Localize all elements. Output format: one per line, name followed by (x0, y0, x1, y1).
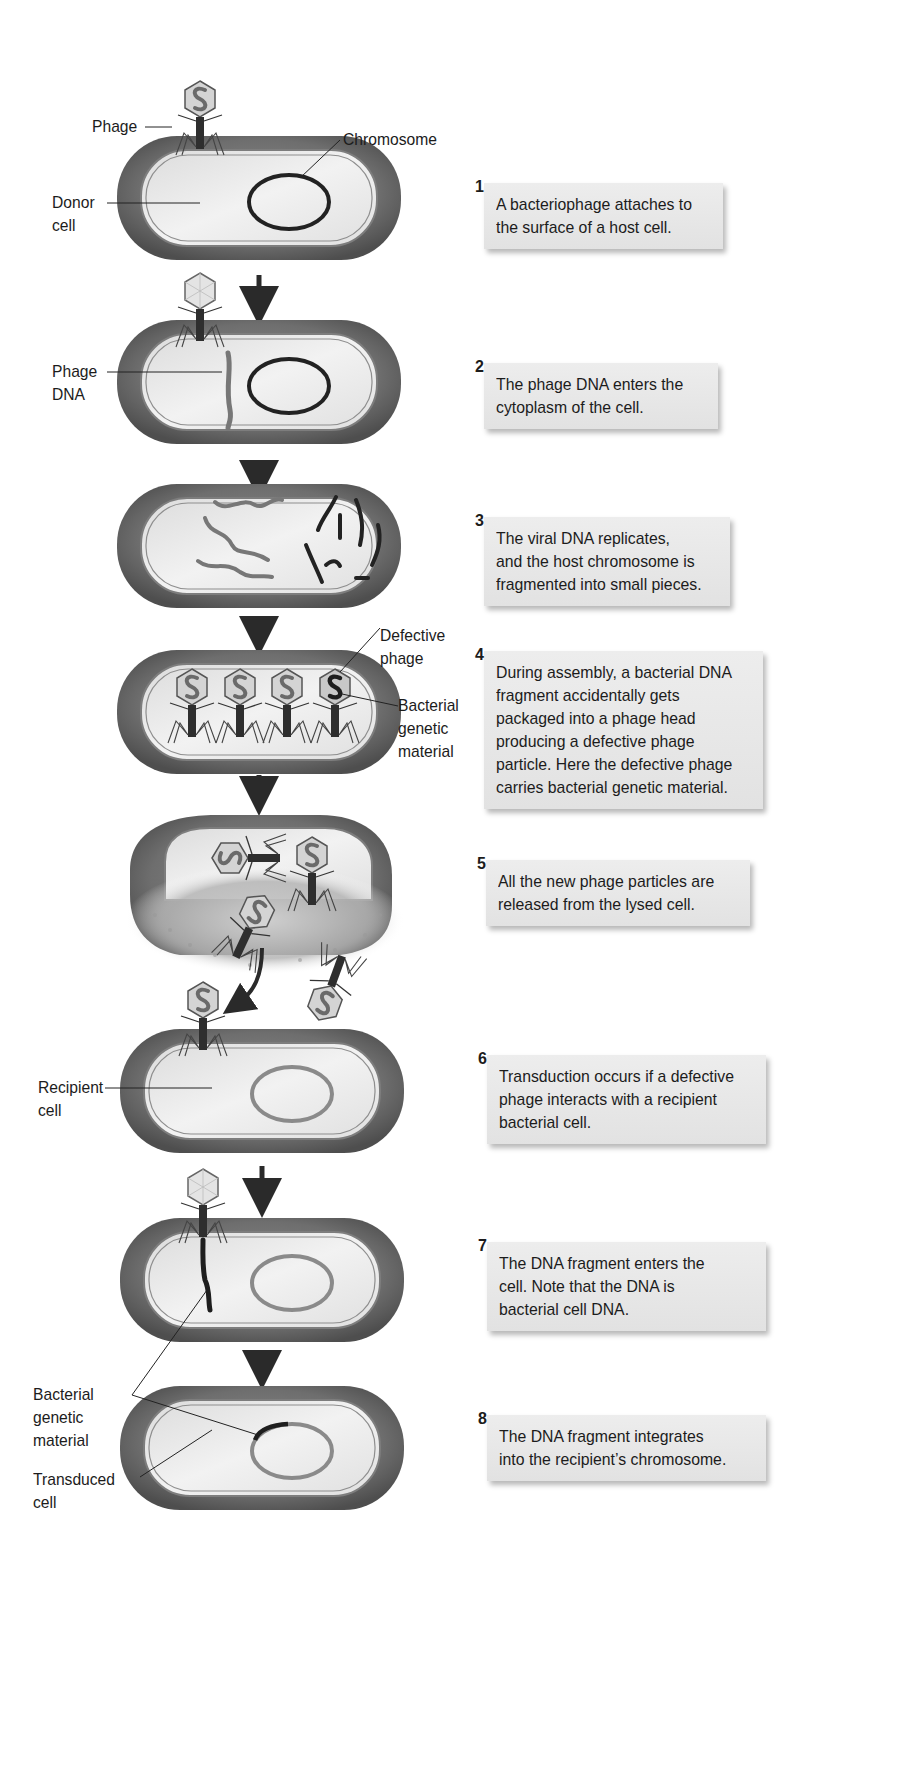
step4-cell (117, 628, 401, 774)
step-text: All the new phage particles are released… (498, 870, 721, 916)
step-caption-6: 6 Transduction occurs if a defective pha… (487, 1055, 766, 1144)
label-phage: Phage (92, 115, 137, 138)
step-number: 1 (475, 175, 484, 198)
step-text: A bacteriophage attaches to the surface … (496, 193, 696, 239)
step8-transduced-cell (120, 1386, 404, 1510)
label-bacterial-genetic-material-step7: Bacterial genetic material (33, 1383, 94, 1452)
step-number: 3 (475, 509, 484, 532)
step-number: 2 (475, 355, 484, 378)
step-caption-7: 7 The DNA fragment enters the cell. Note… (487, 1242, 766, 1331)
step1-donor-cell (107, 81, 401, 260)
step5-lysed-cell (125, 815, 405, 1028)
label-bacterial-genetic-material-step4: Bacterial genetic material (398, 694, 459, 763)
step-text: The DNA fragment integrates into the rec… (499, 1425, 736, 1471)
step-caption-3: 3 The viral DNA replicates, and the host… (484, 517, 730, 606)
label-phage-dna: Phage DNA (52, 360, 97, 406)
step-number: 8 (478, 1407, 487, 1430)
label-chromosome: Chromosome (343, 128, 437, 151)
step-caption-4: 4 During assembly, a bacterial DNA fragm… (484, 651, 763, 809)
step-text: The viral DNA replicates, and the host c… (496, 527, 702, 596)
step-number: 6 (478, 1047, 487, 1070)
step-caption-8: 8 The DNA fragment integrates into the r… (487, 1415, 766, 1481)
step6-recipient-cell (105, 982, 404, 1153)
step-caption-2: 2 The phage DNA enters the cytoplasm of … (484, 363, 718, 429)
label-transduced-cell: Transduced cell (33, 1468, 115, 1514)
transduction-diagram: Phage Chromosome Donor cell Phage DNA De… (0, 0, 916, 1776)
step-text: The phage DNA enters the cytoplasm of th… (496, 373, 691, 419)
label-recipient-cell: Recipient cell (38, 1076, 103, 1122)
label-donor-cell: Donor cell (52, 191, 95, 237)
step-text: Transduction occurs if a defective phage… (499, 1065, 736, 1134)
step3-cell (117, 484, 401, 608)
step-caption-5: 5 All the new phage particles are releas… (486, 860, 750, 926)
step-number: 5 (477, 852, 486, 875)
step-caption-1: 1 A bacteriophage attaches to the surfac… (484, 183, 723, 249)
step-number: 7 (478, 1234, 487, 1257)
step2-cell (107, 273, 401, 444)
label-defective-phage: Defective phage (380, 624, 445, 670)
step-text: During assembly, a bacterial DNA fragmen… (496, 661, 733, 799)
diagram-artwork (0, 0, 916, 1776)
step-number: 4 (475, 643, 484, 666)
step-text: The DNA fragment enters the cell. Note t… (499, 1252, 736, 1321)
